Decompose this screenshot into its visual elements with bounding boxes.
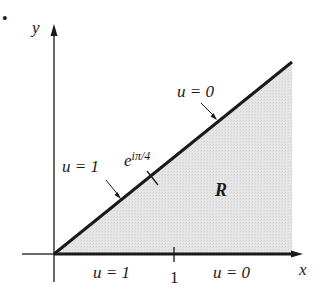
wedge-region-diagram: • y x 1 eiπ/4 u = 0 u = 1 R bbox=[0, 0, 327, 307]
bullet-marker: • bbox=[2, 10, 8, 27]
x-axis-label: x bbox=[298, 260, 307, 279]
region-label: R bbox=[214, 180, 227, 200]
y-axis-label: y bbox=[30, 18, 40, 37]
x-tick-label-1: 1 bbox=[170, 268, 179, 287]
unit-point-label: eiπ/4 bbox=[124, 149, 150, 170]
leader-arrow-u1-icon bbox=[115, 192, 122, 199]
label-diagonal-u0: u = 0 bbox=[177, 82, 214, 101]
y-axis-arrow-icon bbox=[51, 24, 58, 36]
x-axis-arrow-icon bbox=[291, 251, 303, 258]
label-diagonal-u1: u = 1 bbox=[62, 157, 99, 176]
label-xaxis-u1: u = 1 bbox=[93, 263, 130, 282]
label-xaxis-u0: u = 0 bbox=[213, 263, 250, 282]
